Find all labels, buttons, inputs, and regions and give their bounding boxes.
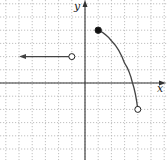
grid (0, 0, 168, 160)
x-axis-label: x (157, 82, 164, 95)
y-axis-arrow-icon (83, 0, 88, 7)
open-point (135, 106, 141, 112)
open-point (69, 54, 75, 60)
ray-arrow-icon (19, 54, 26, 59)
function-graph: x y (0, 0, 168, 160)
y-axis-label: y (73, 0, 81, 13)
closed-point (95, 27, 101, 33)
plot-area (19, 27, 141, 112)
